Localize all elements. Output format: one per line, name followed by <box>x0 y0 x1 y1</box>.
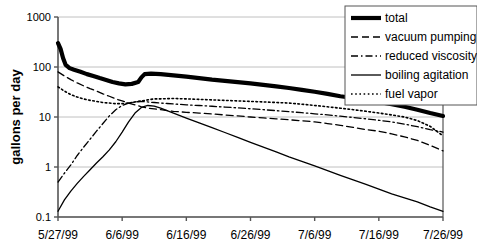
x-tick-label: 7/6/99 <box>298 228 332 242</box>
chart-plot-area: 10001001010.1 5/27/996/6/996/16/996/26/9… <box>0 0 477 250</box>
y-tick-label: 10 <box>39 111 51 123</box>
chart-figure: 10001001010.1 5/27/996/6/996/16/996/26/9… <box>0 0 477 250</box>
x-tick-label: 7/16/99 <box>359 228 399 242</box>
legend-label-total: total <box>385 11 408 25</box>
y-tick-label: 1000 <box>27 11 51 23</box>
chart-legend: totalvacuum pumpingreduced viscosityboil… <box>345 6 477 105</box>
legend-label-fuel-vapor: fuel vapor <box>385 87 438 101</box>
y-tick-label: 0.1 <box>36 211 51 223</box>
x-tick-label: 6/16/99 <box>166 228 206 242</box>
legend-label-vacuum-pumping: vacuum pumping <box>385 30 476 44</box>
y-axis-title-text: gallons per day <box>8 69 23 165</box>
y-tick-label: 100 <box>33 61 51 73</box>
x-tick-label: 6/6/99 <box>105 228 139 242</box>
y-tick-label: 1 <box>45 161 51 173</box>
x-tick-label: 6/26/99 <box>230 228 270 242</box>
legend-label-reduced-viscosity: reduced viscosity <box>385 49 477 63</box>
legend-label-boiling-agitation: boiling agitation <box>385 68 468 82</box>
x-tick-label: 5/27/99 <box>38 228 78 242</box>
y-axis-title: gallons per day <box>8 69 23 165</box>
x-tick-label: 7/26/99 <box>423 228 463 242</box>
